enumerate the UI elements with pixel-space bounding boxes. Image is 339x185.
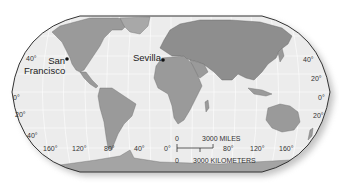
lon-label-80e: 80° — [223, 145, 234, 152]
lon-label-40w: 40° — [134, 145, 145, 152]
lon-label-120e: 120° — [250, 145, 264, 152]
lon-label-80w: 80° — [104, 145, 115, 152]
scale-miles-label: 3000 MILES — [202, 135, 241, 142]
lon-label-120w: 120° — [72, 145, 86, 152]
lon-label-160w: 160° — [43, 145, 57, 152]
city-label-san-francisco: San Francisco — [40, 56, 65, 76]
city-marker-san-francisco — [65, 57, 69, 61]
city-label-sevilla: Sevilla — [133, 53, 161, 63]
scale-miles-zero: 0 — [175, 135, 179, 142]
lon-label-0: 0° — [164, 145, 171, 152]
scale-km-label: 3000 KILOMETERS — [193, 157, 256, 164]
world-map: San Francisco Sevilla 40° 0° 20° 40° 40°… — [0, 0, 339, 185]
lat-label-left-40n: 40° — [26, 55, 37, 62]
lat-label-right-20n: 20° — [311, 75, 322, 82]
city-marker-sevilla — [161, 58, 165, 62]
lat-label-right-0: 0° — [318, 94, 325, 101]
lon-label-160e: 160° — [279, 145, 293, 152]
lat-label-left-0: 0° — [13, 94, 20, 101]
map-graphic — [0, 0, 339, 185]
lat-label-left-40s: 40° — [27, 132, 38, 139]
lat-label-left-20s: 20° — [15, 111, 26, 118]
city-label-line: Francisco — [24, 66, 65, 76]
lat-label-right-40n: 40° — [303, 56, 314, 63]
scale-km-zero: 0 — [175, 157, 179, 164]
lat-label-right-20s: 20° — [313, 112, 324, 119]
